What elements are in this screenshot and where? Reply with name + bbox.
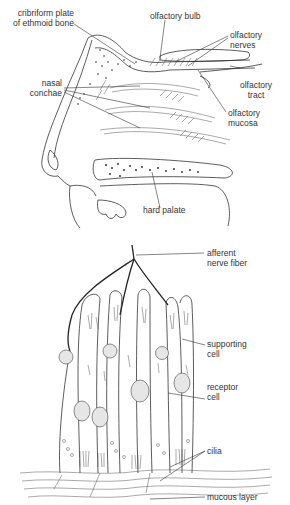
label-olfactory-tract: olfactory tract: [228, 80, 284, 100]
olfactory-epithelium-figure: afferent nerve fiber supporting cell rec…: [0, 245, 290, 505]
label-line: tract: [228, 90, 284, 100]
vesicles: [63, 440, 190, 459]
label-line: cell: [207, 392, 238, 402]
label-line: olfactory: [228, 108, 260, 118]
epithelial-cells: [59, 289, 193, 473]
label-line: cell: [207, 349, 247, 359]
label-line: conchae: [22, 88, 62, 98]
hard-palate-shape: [93, 158, 232, 180]
olfactory-epithelium-drawing: [0, 245, 290, 505]
label-line: nerves: [230, 40, 262, 50]
label-mucous-layer: mucous layer: [207, 492, 258, 502]
label-supporting-cell: supporting cell: [207, 339, 247, 359]
label-line: olfactory: [228, 80, 284, 90]
label-nasal-conchae: nasal conchae: [22, 78, 62, 98]
label-line: olfactory: [230, 30, 262, 40]
label-line: of ethmoid bone: [2, 18, 74, 28]
label-line: mucosa: [228, 118, 260, 128]
label-cilia: cilia: [207, 446, 222, 456]
olfactory-bulb-shape: [160, 49, 250, 61]
label-hard-palate: hard palate: [143, 205, 186, 215]
label-line: supporting: [207, 339, 247, 349]
label-line: afferent: [207, 248, 247, 258]
label-olfactory-nerves: olfactory nerves: [230, 30, 262, 50]
cell-nuclei: [59, 344, 190, 427]
label-olfactory-mucosa: olfactory mucosa: [228, 108, 260, 128]
label-line: cribriform plate: [2, 8, 74, 18]
afferent-nerve-fibers: [68, 245, 168, 351]
label-afferent-nerve-fiber: afferent nerve fiber: [207, 248, 247, 268]
label-line: receptor: [207, 382, 238, 392]
label-line: nasal: [22, 78, 62, 88]
label-olfactory-bulb: olfactory bulb: [150, 11, 201, 21]
nasal-cavity-figure: cribriform plate of ethmoid bone olfacto…: [0, 0, 290, 245]
bone-stipple: [77, 49, 137, 105]
label-cribriform-plate: cribriform plate of ethmoid bone: [2, 8, 74, 28]
conchae-hatching: [96, 80, 230, 144]
palate-stipple: [105, 163, 199, 177]
label-line: nerve fiber: [207, 258, 247, 268]
label-receptor-cell: receptor cell: [207, 382, 238, 402]
